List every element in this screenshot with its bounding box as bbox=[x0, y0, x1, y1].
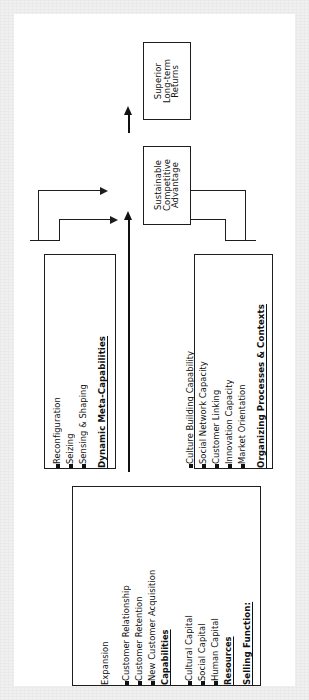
node-dmc-item-3: Reconfiguration bbox=[52, 397, 62, 468]
connector-selling-to-sca-shaft bbox=[128, 220, 131, 472]
bullet-square-icon bbox=[138, 681, 142, 685]
node-sell-group-2-label: Capabilities bbox=[160, 629, 170, 685]
node-sell-g2-item-col-4: Expansion bbox=[100, 487, 118, 685]
bullet-square-icon bbox=[241, 464, 245, 468]
bullet-square-icon bbox=[151, 681, 155, 685]
node-sell-g2-item-col-1: New Customer Acquisition bbox=[147, 487, 157, 685]
node-superior-long-term-returns: Superior Long-term Returns bbox=[143, 42, 191, 120]
node-opc-item-col-4: Social Network Capacity bbox=[198, 255, 208, 468]
node-opc-item-col-5: Culture Building Capability bbox=[185, 255, 195, 468]
node-sca-line-3: Advantage bbox=[171, 162, 180, 208]
bullet-square-icon bbox=[202, 464, 206, 468]
node-dmc-item-1: Sensing & Shaping bbox=[78, 384, 88, 468]
node-returns-text: Superior Long-term Returns bbox=[144, 43, 190, 119]
node-sustainable-competitive-advantage: Sustainable Competitive Advantage bbox=[143, 146, 191, 225]
node-sell-g1-item-col-1: Human Capital bbox=[210, 487, 220, 685]
node-opc-item-col-3: Customer Linking bbox=[211, 255, 221, 468]
bullet-square-icon bbox=[188, 681, 192, 685]
bullet-square-icon bbox=[201, 681, 205, 685]
bullet-square-icon bbox=[228, 464, 232, 468]
figure-root: Superior Long-term Returns Sustainable C… bbox=[0, 0, 309, 700]
bullet-square-icon bbox=[56, 464, 60, 468]
connector-dmc-lower-vertical bbox=[59, 219, 60, 241]
node-opc-item-col-1: Market Orientation bbox=[237, 255, 247, 468]
connector-opc-top-rail bbox=[225, 240, 256, 241]
node-opc-header-col: Organizing Processes & Contexts bbox=[256, 255, 266, 468]
node-sell-g1-item-1: Human Capital bbox=[210, 618, 220, 685]
node-sell-group-1-label: Resources bbox=[223, 636, 233, 685]
node-opc-item-1: Market Orientation bbox=[237, 384, 247, 468]
node-sell-header: Selling Function: bbox=[242, 602, 252, 685]
node-sell-group-2-label-col: Capabilities bbox=[160, 487, 170, 685]
node-dmc-item-col-1: Sensing & Shaping bbox=[78, 255, 88, 468]
node-sell-g2-item-3: Customer Relationship bbox=[121, 585, 131, 685]
node-sell-g2-item-col-3: Customer Relationship bbox=[121, 487, 131, 685]
node-sell-g2-item-col-2: Customer Retention bbox=[134, 487, 144, 685]
node-sell-group-1-label-col: Resources bbox=[223, 487, 233, 685]
connector-dmc-upper-head bbox=[100, 187, 108, 195]
node-sell-g2-item-2: Customer Retention bbox=[134, 596, 144, 685]
connector-sca-to-returns-head bbox=[124, 106, 132, 115]
bullet-square-icon bbox=[69, 464, 73, 468]
node-opc-header: Organizing Processes & Contexts bbox=[256, 304, 266, 468]
node-opc-item-5: Culture Building Capability bbox=[185, 351, 195, 468]
node-sell-header-col: Selling Function: bbox=[242, 487, 252, 685]
bullet-square-icon bbox=[214, 681, 218, 685]
connector-dmc-top-rail bbox=[30, 240, 60, 241]
node-dmc-header-col: Dynamic Meta-Capabilities bbox=[97, 255, 107, 468]
node-opc-item-col-2: Innovation Capacity bbox=[224, 255, 234, 468]
node-sell-g1-item-col-3: Cultural Capital bbox=[184, 487, 194, 685]
node-opc-item-4: Social Network Capacity bbox=[198, 361, 208, 468]
connector-dmc-lower-horizontal bbox=[59, 219, 111, 220]
node-dmc-item-2: Seizing bbox=[65, 434, 75, 469]
connector-selling-to-sca-head bbox=[124, 211, 132, 220]
connector-opc-upper-vertical bbox=[245, 190, 246, 241]
bullet-square-icon bbox=[215, 464, 219, 468]
bullet-square-icon bbox=[125, 681, 129, 685]
diagram-canvas: Superior Long-term Returns Sustainable C… bbox=[14, 14, 295, 686]
node-sell-g2-item-4: Expansion bbox=[100, 641, 118, 685]
node-opc-item-2: Innovation Capacity bbox=[224, 379, 234, 468]
node-opc-item-3: Customer Linking bbox=[211, 390, 221, 468]
connector-opc-upper-horizontal bbox=[189, 190, 246, 191]
node-dmc-item-col-3: Reconfiguration bbox=[52, 255, 62, 468]
connector-dmc-upper-vertical bbox=[38, 190, 39, 241]
bullet-square-icon bbox=[189, 464, 193, 468]
node-returns-line-3: Returns bbox=[171, 65, 180, 98]
node-sell-g2-item-1: New Customer Acquisition bbox=[147, 570, 157, 685]
connector-dmc-lower-head bbox=[110, 216, 118, 224]
node-organizing-processes-contexts: Organizing Processes & Contexts Market O… bbox=[194, 254, 273, 469]
bullet-square-icon bbox=[82, 464, 86, 468]
node-sell-g1-item-3: Cultural Capital bbox=[184, 615, 194, 685]
node-sell-g1-item-col-2: Social Capital bbox=[197, 487, 207, 685]
node-dmc-header: Dynamic Meta-Capabilities bbox=[97, 336, 107, 468]
node-sca-text: Sustainable Competitive Advantage bbox=[144, 147, 190, 224]
connector-opc-lower-vertical bbox=[225, 219, 226, 241]
node-selling-function: Selling Function: Resources Human Capita… bbox=[72, 486, 261, 686]
node-sell-g1-item-2: Social Capital bbox=[197, 623, 207, 685]
node-dmc-item-col-2: Seizing bbox=[65, 255, 75, 468]
connector-dmc-upper-horizontal bbox=[38, 190, 101, 191]
connector-sca-to-returns-shaft bbox=[128, 115, 131, 133]
node-dynamic-meta-capabilities: Dynamic Meta-Capabilities Sensing & Shap… bbox=[44, 254, 116, 469]
